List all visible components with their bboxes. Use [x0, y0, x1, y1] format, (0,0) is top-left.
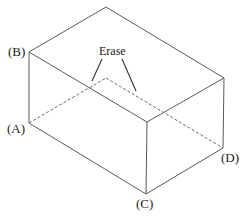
- box-diagram: [0, 0, 244, 217]
- vertex-label-b: (B): [8, 45, 25, 58]
- erase-leader-right: [122, 59, 136, 91]
- edge-a-to-c: [29, 123, 146, 194]
- hidden-edges: [29, 78, 223, 148]
- erase-annotation: Erase: [99, 45, 126, 57]
- edge-b-to-top-front: [29, 52, 147, 122]
- erase-leader-lines: [92, 59, 136, 91]
- hidden-edge-a-to-back: [29, 78, 106, 123]
- vertex-label-d: (D): [221, 151, 239, 164]
- edge-top-back-to-b: [29, 7, 106, 52]
- edge-top-right-to-d: [223, 78, 224, 148]
- visible-edges: [29, 7, 224, 194]
- vertex-label-c: (C): [136, 197, 153, 210]
- vertex-label-a: (A): [7, 122, 25, 135]
- edge-top-front-to-c: [146, 122, 147, 194]
- edge-c-to-d: [146, 148, 223, 194]
- edge-top-back-to-top-right: [106, 7, 224, 78]
- erase-leader-left: [92, 59, 102, 81]
- edge-top-right-to-top-front: [147, 78, 224, 122]
